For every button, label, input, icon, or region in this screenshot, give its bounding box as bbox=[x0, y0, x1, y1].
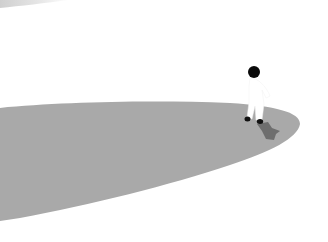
character-left-foot bbox=[245, 117, 251, 122]
character-head bbox=[248, 66, 260, 78]
game-scene[interactable] bbox=[0, 0, 328, 242]
character-right-foot bbox=[257, 119, 263, 124]
